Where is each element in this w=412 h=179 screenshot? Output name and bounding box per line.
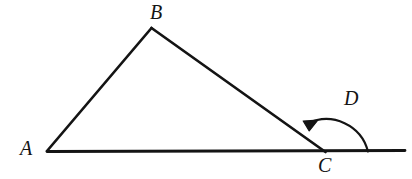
- geometry-figure: A B C D: [0, 0, 412, 179]
- angle-arc-arrowhead: [303, 120, 318, 131]
- base-line: [47, 151, 405, 152]
- segment-ab: [47, 28, 152, 151]
- angle-label-d: D: [344, 88, 358, 108]
- vertex-label-b: B: [150, 2, 162, 22]
- vertex-label-a: A: [20, 138, 32, 158]
- segment-bc: [152, 28, 326, 152]
- vertex-label-c: C: [318, 155, 331, 175]
